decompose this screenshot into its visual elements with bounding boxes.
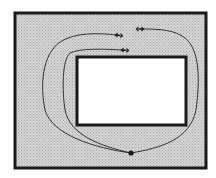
base-point [128, 150, 133, 155]
inner-rectangle [77, 57, 186, 125]
diagram-canvas [0, 0, 216, 178]
